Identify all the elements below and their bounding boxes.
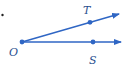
label-s: S [89,54,97,67]
label-t: T [83,4,92,17]
point-s [91,40,96,45]
angle-diagram: O T S [0,0,127,68]
point-o [20,40,25,45]
label-o: O [9,46,18,59]
point-t [88,20,93,25]
bullet-dot [1,14,3,16]
ray-ot [22,14,119,42]
